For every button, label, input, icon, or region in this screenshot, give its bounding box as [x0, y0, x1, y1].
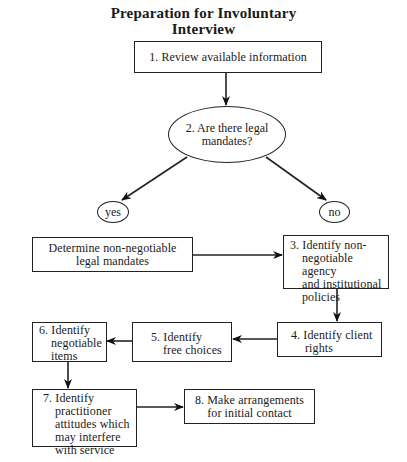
step5-line-2: free choices [151, 344, 231, 357]
no-branch: no [319, 201, 350, 223]
no-label: no [329, 206, 341, 219]
step3-line-4: policies [290, 291, 382, 304]
arrow-step2-to-yes [122, 157, 187, 200]
arrow-step2-to-no [266, 157, 326, 200]
step1-review-info: 1. Review available information [134, 41, 322, 73]
step2-line-2: mandates? [186, 135, 269, 148]
step4-line-2: rights [291, 342, 381, 355]
yes-branch: yes [97, 201, 129, 223]
step2-line-1: 2. Are there legal [186, 122, 269, 135]
step8-line-2: for initial contact [195, 407, 304, 420]
determine-legal-mandates: Determine non-negotiable legal mandates [32, 237, 193, 272]
yes-label: yes [105, 206, 121, 219]
step7-line-5: with service [43, 444, 136, 457]
step6-line-3: items [39, 350, 106, 363]
step4-client-rights: 4. Identify client rights [277, 322, 382, 357]
determine-line-2: legal mandates [48, 255, 176, 268]
determine-line-1: Determine non-negotiable [48, 242, 176, 255]
step5-free-choices: 5. Identify free choices [132, 322, 232, 362]
step2-decision-legal-mandates: 2. Are there legal mandates? [168, 106, 286, 163]
step6-negotiable-items: 6. Identify negotiable items [32, 322, 107, 362]
step8-line-1: 8. Make arrangements [195, 394, 304, 407]
step8-initial-contact: 8. Make arrangements for initial contact [184, 389, 315, 424]
step1-label: 1. Review available information [149, 51, 307, 64]
step7-practitioner-attitudes: 7. Identify practitioner attitudes which… [32, 389, 137, 447]
step3-agency-policies: 3. Identify non- negotiable agency and i… [283, 235, 389, 289]
step3-line-2: negotiable agency [290, 252, 382, 278]
